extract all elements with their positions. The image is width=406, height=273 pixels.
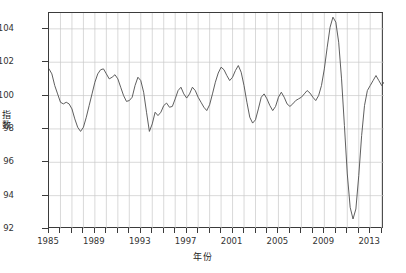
x-axis-tick-mark <box>243 228 244 233</box>
x-axis-tick-mark <box>163 228 164 233</box>
x-axis-tick-mark <box>94 228 95 233</box>
x-axis-tick-mark <box>186 228 187 233</box>
x-axis-tick-label: 2009 <box>313 236 335 246</box>
y-axis-tick-label: 104 <box>0 23 14 33</box>
x-axis-tick-mark <box>174 228 175 233</box>
x-axis-tick-mark <box>82 228 83 233</box>
x-axis-tick-mark <box>105 228 106 233</box>
x-axis-tick-mark <box>209 228 210 233</box>
x-axis-tick-mark <box>335 228 336 233</box>
x-axis-tick-mark <box>266 228 267 233</box>
x-axis-tick-mark <box>289 228 290 233</box>
x-axis-tick-mark <box>346 228 347 233</box>
x-axis-tick-mark <box>48 228 49 233</box>
x-axis-tick-mark <box>381 228 382 233</box>
x-axis-tick-mark <box>151 228 152 233</box>
x-axis-tick-mark <box>117 228 118 233</box>
x-axis-tick-label: 1985 <box>37 236 59 246</box>
y-axis-tick-mark <box>42 161 48 162</box>
y-axis-tick-mark <box>42 128 48 129</box>
y-axis-tick-label: 102 <box>0 56 14 66</box>
x-axis-tick-mark <box>128 228 129 233</box>
data-series-line <box>49 13 384 229</box>
y-axis-tick-label: 96 <box>3 156 14 166</box>
plot-area <box>48 12 383 228</box>
x-axis-tick-mark <box>232 228 233 233</box>
y-axis-tick-mark <box>42 195 48 196</box>
y-axis-tick-label: 92 <box>3 223 14 233</box>
x-axis-tick-mark <box>323 228 324 233</box>
x-axis-tick-label: 1989 <box>83 236 105 246</box>
x-axis-tick-label: 2013 <box>358 236 380 246</box>
y-axis-tick-mark <box>42 95 48 96</box>
x-axis-tick-mark <box>197 228 198 233</box>
x-axis-tick-mark <box>140 228 141 233</box>
x-axis-tick-mark <box>220 228 221 233</box>
x-axis-tick-label: 2001 <box>221 236 243 246</box>
x-axis-tick-mark <box>71 228 72 233</box>
x-axis-tick-mark <box>59 228 60 233</box>
x-axis-tick-mark <box>369 228 370 233</box>
y-axis-tick-mark <box>42 61 48 62</box>
x-axis-tick-mark <box>312 228 313 233</box>
x-axis-tick-label: 1997 <box>175 236 197 246</box>
x-axis-tick-label: 1993 <box>129 236 151 246</box>
x-axis-tick-label: 2005 <box>267 236 289 246</box>
y-axis-tick-mark <box>42 28 48 29</box>
x-axis-tick-mark <box>300 228 301 233</box>
y-axis-tick-label: 98 <box>3 123 14 133</box>
y-axis-tick-label: 100 <box>0 90 14 100</box>
x-axis-label: 年份 <box>0 250 406 263</box>
chart-figure: 指数 年份 9294969810010210419851989199319972… <box>0 0 406 273</box>
y-axis-tick-label: 94 <box>3 190 14 200</box>
x-axis-tick-mark <box>358 228 359 233</box>
x-axis-tick-mark <box>255 228 256 233</box>
x-axis-tick-mark <box>277 228 278 233</box>
